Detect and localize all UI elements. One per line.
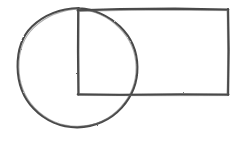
rectangle-right-edge bbox=[228, 9, 229, 95]
rectangle-shape bbox=[78, 9, 229, 96]
geometric-figure bbox=[0, 0, 237, 146]
drawing-canvas bbox=[0, 0, 237, 146]
rectangle-top-edge-overstroke bbox=[79, 10, 227, 11]
